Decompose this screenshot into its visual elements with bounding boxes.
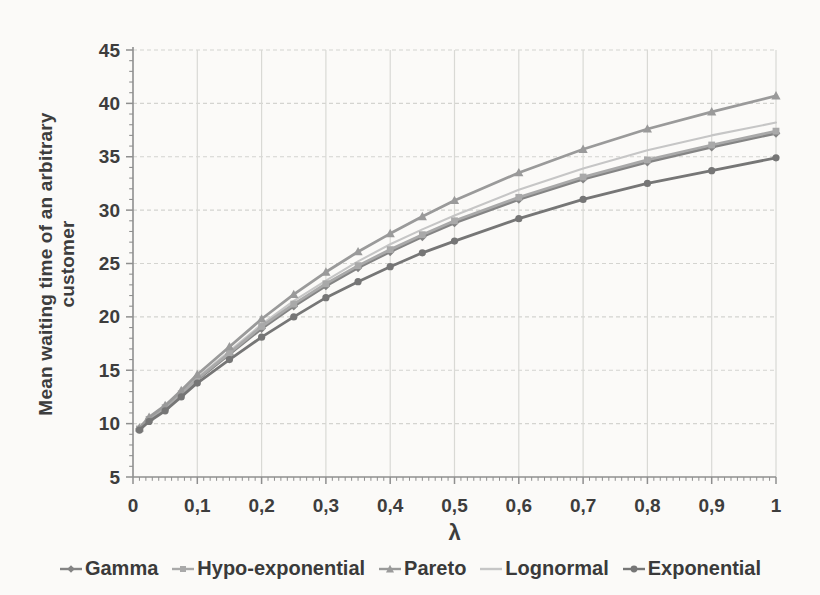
- x-tick-label-4: 0,4: [377, 495, 404, 516]
- hypo-exponential-legend-glyph: [180, 566, 186, 572]
- y-tick-label-5: 5: [109, 467, 120, 488]
- x-axis-title: λ: [448, 520, 460, 545]
- hypo-exponential-legend-marker-icon: [171, 562, 195, 576]
- series-exponential-marker-7: [290, 313, 297, 320]
- y-tick-label-25: 25: [99, 253, 121, 274]
- y-axis-title: Mean waiting time of an arbitrary custom…: [35, 49, 81, 479]
- legend-item-pareto: Pareto: [378, 557, 466, 580]
- legend-item-lognormal: Lognormal: [479, 557, 608, 580]
- series-pareto-line: [139, 96, 776, 428]
- y-tick-label-20: 20: [99, 306, 120, 327]
- x-tick-label-7: 0,7: [570, 495, 596, 516]
- series-exponential-marker-17: [772, 154, 779, 161]
- series-hypo-exponential-marker-10: [387, 246, 394, 253]
- series-exponential-marker-6: [258, 334, 265, 341]
- exponential-legend-marker-icon: [622, 562, 646, 576]
- series-hypo-exponential-marker-17: [773, 128, 780, 135]
- series-hypo-exponential-marker-9: [355, 262, 362, 269]
- y-axis-title-line1: Mean waiting time of an arbitrary: [35, 49, 57, 479]
- lognormal-legend-marker-icon: [479, 562, 503, 576]
- series-hypo-exponential: [136, 128, 779, 433]
- series-exponential-marker-9: [354, 278, 361, 285]
- series-hypo-exponential-marker-13: [515, 194, 522, 201]
- pareto-legend-marker-icon: [378, 562, 402, 576]
- exponential-legend-glyph: [630, 565, 637, 572]
- x-tick-label-6: 0,6: [506, 495, 532, 516]
- legend-item-gamma: Gamma: [59, 557, 158, 580]
- series-hypo-exponential-marker-6: [258, 323, 265, 330]
- y-tick-label-40: 40: [99, 93, 120, 114]
- y-tick-labels: 51015202530354045: [99, 40, 121, 488]
- series-hypo-exponential-marker-16: [708, 142, 715, 149]
- x-tick-label-5: 0,5: [441, 495, 468, 516]
- legend-label-lognormal: Lognormal: [505, 557, 608, 580]
- y-axis-ticks: [126, 50, 133, 477]
- x-tick-label-1: 0,1: [184, 495, 211, 516]
- y-axis-title-line2: customer: [57, 49, 79, 479]
- x-tick-label-3: 0,3: [313, 495, 339, 516]
- series-hypo-exponential-marker-8: [323, 280, 330, 287]
- waiting-time-chart: 5101520253035404500,10,20,30,40,50,60,70…: [0, 0, 820, 555]
- x-tick-label-9: 0,9: [698, 495, 724, 516]
- series-exponential-marker-10: [387, 263, 394, 270]
- series-exponential-marker-14: [580, 196, 587, 203]
- series-exponential-marker-8: [322, 294, 329, 301]
- series-exponential-marker-15: [644, 180, 651, 187]
- y-tick-label-15: 15: [99, 360, 121, 381]
- x-tick-label-10: 1: [771, 495, 782, 516]
- series-exponential-marker-5: [226, 356, 233, 363]
- series-exponential-marker-3: [178, 393, 185, 400]
- series-exponential-marker-12: [451, 237, 458, 244]
- series-lognormal-line: [139, 123, 776, 428]
- series-exponential-marker-11: [419, 249, 426, 256]
- series-hypo-exponential-marker-12: [451, 217, 458, 224]
- legend-label-exponential: Exponential: [648, 557, 761, 580]
- series-exponential-marker-16: [708, 167, 715, 174]
- y-tick-label-30: 30: [99, 200, 120, 221]
- series-gamma: [135, 129, 780, 433]
- scanned-chart-page: 5101520253035404500,10,20,30,40,50,60,70…: [0, 0, 820, 595]
- gamma-legend-glyph: [67, 565, 75, 573]
- legend-item-exponential: Exponential: [622, 557, 761, 580]
- legend-label-gamma: Gamma: [85, 557, 158, 580]
- x-tick-labels: 00,10,20,30,40,50,60,70,80,91: [128, 495, 782, 516]
- y-tick-label-45: 45: [99, 40, 121, 61]
- series-exponential: [136, 154, 780, 433]
- series-lognormal: [139, 123, 776, 428]
- gamma-legend-marker-icon: [59, 562, 83, 576]
- series-exponential-marker-2: [162, 407, 169, 414]
- legend-label-pareto: Pareto: [404, 557, 466, 580]
- x-tick-label-0: 0: [128, 495, 139, 516]
- series-exponential-marker-0: [136, 426, 143, 433]
- series-hypo-exponential-marker-7: [290, 301, 297, 308]
- y-tick-label-10: 10: [99, 413, 120, 434]
- series-exponential-marker-1: [145, 418, 152, 425]
- x-axis-ticks: [133, 477, 776, 484]
- y-tick-label-35: 35: [99, 146, 121, 167]
- series-exponential-marker-13: [515, 215, 522, 222]
- x-tick-label-8: 0,8: [634, 495, 660, 516]
- chart-legend: GammaHypo-exponentialParetoLognormalExpo…: [0, 557, 820, 580]
- series-hypo-exponential-marker-5: [226, 350, 233, 357]
- legend-item-hypo-exponential: Hypo-exponential: [171, 557, 365, 580]
- x-tick-label-2: 0,2: [248, 495, 274, 516]
- series-hypo-exponential-marker-15: [644, 157, 651, 164]
- series-exponential-marker-4: [194, 379, 201, 386]
- series-hypo-exponential-marker-11: [419, 231, 426, 238]
- legend-label-hypo-exponential: Hypo-exponential: [197, 557, 365, 580]
- series-hypo-exponential-marker-14: [580, 174, 587, 181]
